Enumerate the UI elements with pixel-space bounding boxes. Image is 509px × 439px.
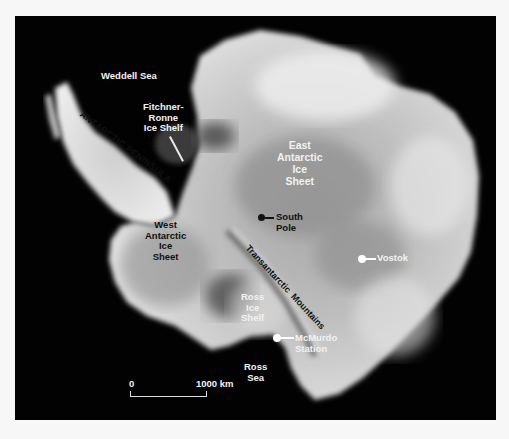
label-mcmurdo-station: McMurdo Station — [295, 333, 337, 354]
label-fitchner-ronne-ice-shelf: Fitchner- Ronne Ice Shelf — [143, 102, 184, 134]
mcmurdo-leader-line — [281, 337, 294, 339]
label-west-antarctic-ice-sheet: West Antarctic Ice Sheet — [145, 220, 186, 262]
vostok-leader-line — [366, 258, 376, 260]
label-south-pole: South Pole — [276, 212, 303, 233]
label-ross-ice-shelf: Ross Ice Shelf — [241, 292, 264, 324]
label-weddell-sea: Weddell Sea — [101, 71, 157, 82]
antarctica-landmass — [15, 16, 496, 420]
label-east-antarctic-ice-sheet: East Antarctic Ice Sheet — [277, 139, 323, 187]
vostok-marker-icon — [358, 255, 366, 263]
map-frame: Weddell Sea Fitchner- Ronne Ice Shelf AN… — [15, 16, 496, 420]
scale-bar — [130, 391, 207, 397]
mcmurdo-station-marker-icon — [273, 334, 281, 342]
scale-bar-end-label: 1000 km — [196, 379, 234, 390]
scale-bar-start-label: 0 — [129, 379, 134, 390]
label-ross-sea: Ross Sea — [244, 362, 267, 383]
label-vostok: Vostok — [377, 253, 408, 264]
south-pole-marker-icon — [258, 214, 265, 221]
south-pole-leader-line — [265, 217, 274, 219]
